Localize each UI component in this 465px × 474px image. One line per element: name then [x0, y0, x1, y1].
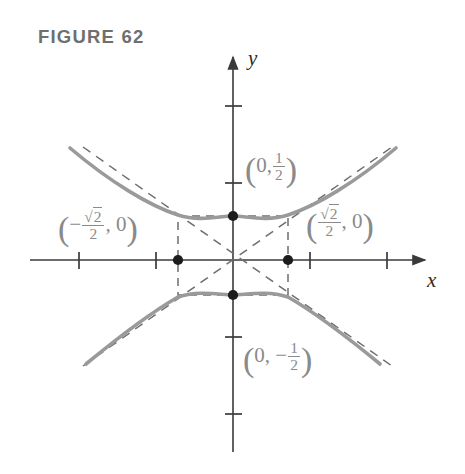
label-top-vertex-close-paren: )	[286, 151, 297, 188]
label-top-vertex-denominator: 2	[273, 167, 285, 183]
label-right-corner-fraction: √22	[318, 206, 340, 240]
label-left-corner-radicand: 2	[93, 207, 103, 225]
label-bottom-vertex-denominator: 2	[288, 357, 300, 373]
label-top-vertex-numerator: 1	[273, 150, 285, 167]
point-top-vertex	[228, 211, 238, 221]
label-right-corner: (√22, 0)	[306, 206, 374, 243]
label-bottom-vertex-open-paren: (	[243, 341, 254, 378]
figure-canvas: FIGURE 62	[0, 0, 465, 474]
label-bottom-vertex: (0, −12)	[243, 340, 312, 377]
point-bottom-vertex	[228, 290, 238, 300]
label-right-corner-close-paren: )	[363, 207, 374, 244]
x-axis-label: x	[427, 268, 436, 293]
point-right-corner	[283, 255, 293, 265]
y-axis-label: y	[248, 46, 257, 71]
label-bottom-vertex-x: 0, −	[254, 343, 287, 367]
label-left-corner-close-paren: )	[126, 210, 137, 247]
label-right-corner-tail: , 0	[342, 209, 363, 233]
label-left-corner-tail: , 0	[105, 212, 126, 236]
label-left-corner-fraction: √22	[82, 209, 104, 243]
label-left-corner-sign: −	[69, 212, 81, 236]
label-bottom-vertex-numerator: 1	[288, 340, 300, 357]
label-right-corner-radicand: 2	[329, 204, 339, 222]
label-bottom-vertex-close-paren: )	[301, 341, 312, 378]
label-left-corner-denominator: 2	[82, 226, 104, 242]
label-left-corner: (−√22, 0)	[58, 209, 138, 246]
label-bottom-vertex-fraction: 12	[288, 340, 300, 374]
label-top-vertex-open-paren: (	[245, 151, 256, 188]
label-left-corner-numerator: √2	[82, 209, 104, 226]
label-right-corner-open-paren: (	[306, 207, 317, 244]
label-top-vertex: (0,12)	[245, 150, 297, 187]
asymptotes	[83, 147, 392, 366]
label-top-vertex-x: 0,	[256, 153, 272, 177]
label-right-corner-numerator: √2	[318, 206, 340, 223]
label-left-corner-open-paren: (	[58, 210, 69, 247]
label-top-vertex-fraction: 12	[273, 150, 285, 184]
label-right-corner-denominator: 2	[318, 223, 340, 239]
point-left-corner	[173, 255, 183, 265]
